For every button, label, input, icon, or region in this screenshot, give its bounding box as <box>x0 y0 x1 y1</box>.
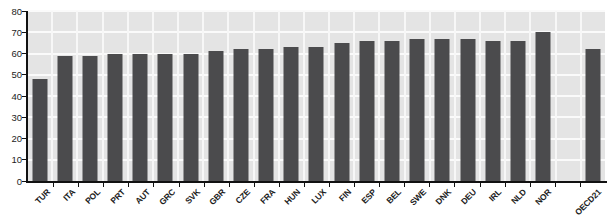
y-tick <box>22 138 26 139</box>
bar-chart: TURITAPOLPRTAUTGRCSVKGBRCZEFRAHUNLUXFINE… <box>0 0 615 221</box>
bar-POL <box>82 56 97 181</box>
separator-gap <box>555 11 580 181</box>
y-tick <box>22 11 26 12</box>
slot-OECD21 <box>580 11 605 181</box>
x-tick <box>78 183 79 187</box>
x-tick <box>555 183 556 187</box>
bar-DNK <box>435 39 450 181</box>
bar-NOR <box>536 32 551 181</box>
slot-SVK <box>177 11 202 181</box>
x-tick <box>204 183 205 187</box>
y-tick-label-10: 10 <box>0 154 22 165</box>
slot-AUT <box>127 11 152 181</box>
x-tick <box>128 183 129 187</box>
y-tick-label-30: 30 <box>0 112 22 123</box>
slot-FIN <box>328 11 353 181</box>
x-tick <box>229 183 230 187</box>
y-tick <box>22 159 26 160</box>
y-tick <box>22 117 26 118</box>
x-label-OECD21: OECD21 <box>564 187 604 221</box>
slot-HUN <box>278 11 303 181</box>
slot-NOR <box>529 11 554 181</box>
y-tick-label-20: 20 <box>0 133 22 144</box>
x-tick <box>530 183 531 187</box>
x-tick <box>429 183 430 187</box>
slot-PRT <box>102 11 127 181</box>
slot-ESP <box>353 11 378 181</box>
bar-SVK <box>183 54 198 182</box>
x-tick <box>103 183 104 187</box>
y-tick <box>22 32 26 33</box>
x-tick <box>480 183 481 187</box>
y-tick-label-60: 60 <box>0 48 22 59</box>
bar-PRT <box>108 54 123 182</box>
y-tick-label-40: 40 <box>0 91 22 102</box>
bar-GBR <box>208 51 223 181</box>
bar-GRC <box>158 54 173 182</box>
y-tick-label-0: 0 <box>0 176 22 187</box>
y-axis-line <box>26 11 28 181</box>
bar-SWE <box>410 39 425 181</box>
y-tick-label-80: 80 <box>0 6 22 17</box>
x-tick <box>454 183 455 187</box>
bar-HUN <box>284 47 299 181</box>
x-tick <box>53 183 54 187</box>
slot-DEU <box>454 11 479 181</box>
bar-FIN <box>334 43 349 181</box>
x-tick <box>379 183 380 187</box>
slot-SWE <box>404 11 429 181</box>
bar-CZE <box>233 49 248 181</box>
slot-CZE <box>227 11 252 181</box>
slot-POL <box>76 11 101 181</box>
x-tick <box>304 183 305 187</box>
y-tick-label-50: 50 <box>0 69 22 80</box>
x-tick <box>505 183 506 187</box>
slot-FRA <box>253 11 278 181</box>
slot-ITA <box>51 11 76 181</box>
bar-DEU <box>460 39 475 181</box>
bar-LUX <box>309 47 324 181</box>
bar-IRL <box>485 41 500 181</box>
y-tick-label-70: 70 <box>0 27 22 38</box>
bar-BEL <box>384 41 399 181</box>
slot-BEL <box>378 11 403 181</box>
slot-IRL <box>479 11 504 181</box>
slot-GBR <box>202 11 227 181</box>
slot-TUR <box>28 11 51 181</box>
bar-NLD <box>510 41 525 181</box>
x-tick <box>254 183 255 187</box>
slot-LUX <box>303 11 328 181</box>
x-tick <box>329 183 330 187</box>
bar-FRA <box>259 49 274 181</box>
x-tick <box>153 183 154 187</box>
x-tick <box>580 183 581 187</box>
plot-area <box>28 11 605 181</box>
x-tick <box>354 183 355 187</box>
x-tick <box>279 183 280 187</box>
x-tick <box>179 183 180 187</box>
slot-NLD <box>504 11 529 181</box>
bar-OECD21 <box>586 49 601 181</box>
y-tick <box>22 96 26 97</box>
slot-DNK <box>429 11 454 181</box>
y-tick <box>22 74 26 75</box>
slot-GRC <box>152 11 177 181</box>
x-tick <box>404 183 405 187</box>
bar-ESP <box>359 41 374 181</box>
bar-ITA <box>57 56 72 181</box>
bar-AUT <box>133 54 148 182</box>
y-tick <box>22 181 26 182</box>
bar-TUR <box>32 79 47 181</box>
x-axis-line <box>26 181 607 183</box>
y-tick <box>22 53 26 54</box>
